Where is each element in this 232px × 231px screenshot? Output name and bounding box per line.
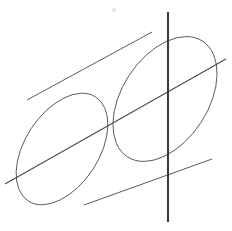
cylinder-line-drawing <box>0 0 232 231</box>
figure-background <box>0 0 232 231</box>
figure-canvas <box>0 0 232 231</box>
paper-speck <box>112 8 116 12</box>
